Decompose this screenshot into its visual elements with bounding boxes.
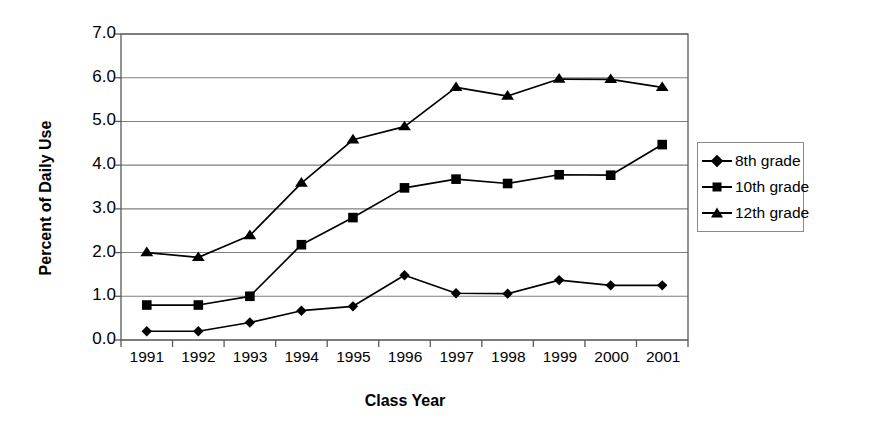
x-axis-tick-label: 1991: [121, 348, 173, 374]
series-12th-grade: [140, 73, 668, 261]
series-line: [147, 275, 662, 331]
legend-item-8th-grade[interactable]: 8th grade: [702, 148, 799, 174]
data-point-marker: [398, 121, 411, 131]
data-point-marker: [606, 170, 616, 180]
data-point-marker: [657, 140, 667, 150]
chart-line-percent-daily-use: Percent of Daily Use 7.06.05.04.03.02.01…: [0, 0, 892, 436]
chart-legend: 8th grade10th grade12th grade: [697, 142, 804, 232]
legend-label: 10th grade: [735, 178, 809, 196]
data-point-marker: [450, 81, 463, 91]
x-axis-tick-label: 1995: [328, 348, 380, 374]
data-point-marker: [451, 288, 461, 298]
data-point-marker: [503, 179, 513, 189]
x-axis-tick-label: 1998: [482, 348, 534, 374]
data-point-marker: [554, 275, 564, 285]
data-point-marker: [451, 174, 461, 184]
data-point-marker: [296, 306, 306, 316]
data-point-marker: [399, 270, 409, 280]
data-point-marker: [245, 291, 255, 301]
x-axis-tick-label: 2001: [637, 348, 689, 374]
data-point-marker: [140, 247, 153, 257]
legend-label: 8th grade: [735, 152, 801, 170]
series-line: [147, 79, 662, 257]
series-line: [147, 145, 662, 305]
legend-item-12th-grade[interactable]: 12th grade: [702, 200, 799, 226]
legend-key-square-icon: [702, 177, 732, 197]
data-point-marker: [554, 170, 564, 180]
x-axis-tick-label: 1993: [224, 348, 276, 374]
x-axis-tick-label: 1992: [173, 348, 225, 374]
data-point-marker: [245, 317, 255, 327]
series-8th-grade: [142, 270, 668, 336]
legend-marker-square-icon: [713, 183, 722, 192]
legend-marker-diamond-icon: [711, 155, 724, 168]
data-point-marker: [348, 213, 358, 223]
data-point-marker: [297, 240, 307, 250]
x-axis-tick-label: 1996: [379, 348, 431, 374]
legend-marker-triangle-icon: [711, 208, 723, 218]
x-axis-title: Class Year: [121, 392, 689, 410]
x-axis-tick-label: 1999: [534, 348, 586, 374]
x-axis-tick-label: 1997: [431, 348, 483, 374]
x-axis-tick-label: 1994: [276, 348, 328, 374]
data-point-marker: [142, 300, 152, 310]
x-axis-tick-labels: 1991199219931994199519961997199819992000…: [121, 348, 689, 374]
legend-key-diamond-icon: [702, 151, 732, 171]
data-point-marker: [348, 301, 358, 311]
legend-key-triangle-icon: [702, 203, 732, 223]
data-point-marker: [193, 326, 203, 336]
legend-label: 12th grade: [735, 204, 809, 222]
data-point-marker: [502, 288, 512, 298]
data-point-marker: [605, 280, 615, 290]
data-point-marker: [194, 300, 204, 310]
data-point-marker: [142, 326, 152, 336]
legend-item-10th-grade[interactable]: 10th grade: [702, 174, 799, 200]
data-point-marker: [604, 74, 617, 84]
data-point-marker: [657, 280, 667, 290]
data-point-marker: [400, 183, 410, 193]
x-axis-tick-label: 2000: [586, 348, 638, 374]
